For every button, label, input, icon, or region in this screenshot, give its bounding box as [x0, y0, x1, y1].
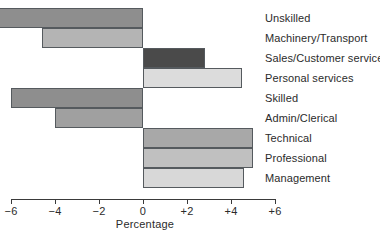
x-axis-tick: [231, 199, 232, 204]
bar-personal-services[interactable]: [143, 68, 242, 88]
x-axis-tick: [11, 199, 12, 204]
x-axis-tick-label: 0: [123, 205, 163, 218]
x-axis-tick: [143, 199, 144, 204]
category-label: Sales/Customer service: [265, 48, 380, 68]
x-axis-tick-label: +6: [255, 205, 295, 218]
x-axis-tick: [275, 199, 276, 204]
bar-machinery-transport[interactable]: [42, 28, 143, 48]
category-label: Admin/Clerical: [265, 108, 380, 128]
bar-row: [0, 108, 290, 128]
category-label: Professional: [265, 148, 380, 168]
x-axis-tick-label: −4: [35, 205, 75, 218]
plot-area: [0, 8, 290, 188]
bar-unskilled[interactable]: [0, 8, 143, 28]
category-label: Technical: [265, 128, 380, 148]
bar-technical[interactable]: [143, 128, 253, 148]
x-axis-tick: [99, 199, 100, 204]
bar-chart-figure: −6−4−20+2+4+6 Percentage UnskilledMachin…: [0, 0, 380, 235]
category-label: Personal services: [265, 68, 380, 88]
bar-row: [0, 8, 290, 28]
bar-row: [0, 48, 290, 68]
bar-row: [0, 168, 290, 188]
bar-row: [0, 128, 290, 148]
x-axis-tick-label: −2: [79, 205, 119, 218]
bar-row: [0, 68, 290, 88]
bar-row: [0, 88, 290, 108]
bar-admin-clerical[interactable]: [55, 108, 143, 128]
x-axis-title: Percentage: [0, 218, 290, 231]
bar-skilled[interactable]: [11, 88, 143, 108]
category-label: Unskilled: [265, 8, 380, 28]
category-label-list: UnskilledMachinery/TransportSales/Custom…: [265, 8, 380, 188]
category-label: Machinery/Transport: [265, 28, 380, 48]
bar-professional[interactable]: [143, 148, 253, 168]
x-axis-tick: [187, 199, 188, 204]
x-axis-tick-label: +2: [167, 205, 207, 218]
category-label: Management: [265, 168, 380, 188]
category-label: Skilled: [265, 88, 380, 108]
bar-row: [0, 148, 290, 168]
x-axis-tick-label: −6: [0, 205, 31, 218]
x-axis-tick-label: +4: [211, 205, 251, 218]
x-axis-tick: [55, 199, 56, 204]
bar-sales-customer-service[interactable]: [143, 48, 205, 68]
bar-management[interactable]: [143, 168, 244, 188]
bar-row: [0, 28, 290, 48]
